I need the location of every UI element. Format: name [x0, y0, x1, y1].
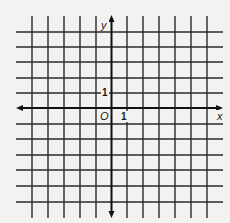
x-axis	[16, 105, 223, 111]
y-axis-down-arrow-icon	[109, 211, 115, 218]
x-axis-left-arrow-icon	[16, 105, 23, 111]
coordinate-plane: y x O 1 1	[0, 0, 230, 223]
y-unit-label: 1	[102, 87, 108, 98]
y-axis-up-arrow-icon	[109, 15, 115, 22]
grid-lines	[16, 16, 223, 218]
x-axis-label: x	[216, 110, 223, 122]
origin-label: O	[100, 110, 109, 122]
x-unit-label: 1	[121, 111, 127, 122]
